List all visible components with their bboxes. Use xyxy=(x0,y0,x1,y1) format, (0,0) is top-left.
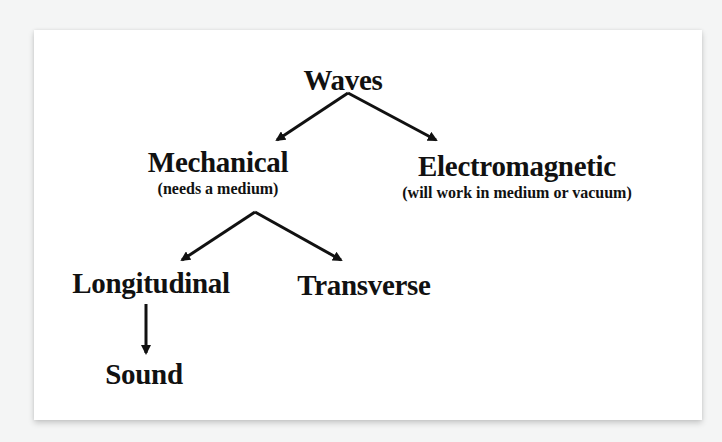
arrow-waves-to-electromagnetic xyxy=(348,93,436,140)
node-mechanical-label: Mechanical xyxy=(148,146,288,178)
node-electromagnetic-label: Electromagnetic xyxy=(418,150,616,182)
arrow-mechanical-to-longitudinal xyxy=(182,212,255,260)
node-mechanical: Mechanical (needs a medium) xyxy=(148,148,288,197)
node-longitudinal: Longitudinal xyxy=(72,269,230,298)
node-electromagnetic: Electromagnetic (will work in medium or … xyxy=(402,152,631,201)
node-sound: Sound xyxy=(105,360,183,389)
node-waves: Waves xyxy=(303,66,382,95)
arrow-mechanical-to-transverse xyxy=(255,212,341,260)
node-mechanical-note: (needs a medium) xyxy=(148,181,288,197)
arrow-waves-to-mechanical xyxy=(277,93,348,140)
node-transverse: Transverse xyxy=(297,271,430,300)
node-electromagnetic-note: (will work in medium or vacuum) xyxy=(402,185,631,201)
